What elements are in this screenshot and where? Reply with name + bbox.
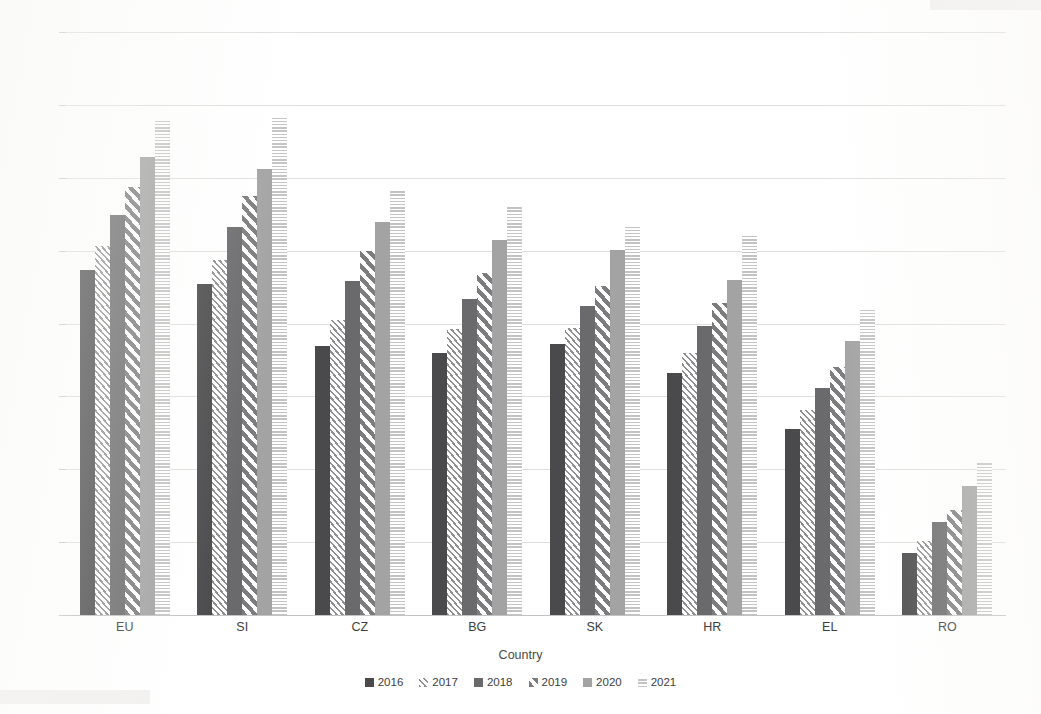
bar-si-2021[interactable]	[272, 118, 287, 615]
bar-group-eu	[66, 32, 184, 615]
bar-si-2020[interactable]	[257, 169, 272, 615]
legend-label: 2018	[487, 676, 513, 688]
bar-el-2016[interactable]	[785, 429, 800, 615]
bar-cz-2018[interactable]	[345, 281, 360, 615]
bar-group-bg	[419, 32, 537, 615]
bar-si-2017[interactable]	[212, 260, 227, 615]
bar-group-bars	[549, 32, 641, 615]
bar-ro-2019[interactable]	[947, 510, 962, 615]
scan-artifact	[0, 690, 150, 704]
x-axis-title: Country	[0, 648, 1041, 662]
bar-hr-2020[interactable]	[727, 280, 742, 615]
x-axis-label-si: SI	[184, 620, 302, 634]
bar-bg-2016[interactable]	[432, 353, 447, 615]
bar-si-2016[interactable]	[197, 284, 212, 615]
bar-chart: DESI composite index 01020304050607080 E…	[0, 0, 1041, 714]
bar-cz-2019[interactable]	[360, 251, 375, 615]
scan-artifact	[930, 0, 1041, 10]
x-axis-label-eu: EU	[66, 620, 184, 634]
bar-sk-2020[interactable]	[610, 250, 625, 615]
legend-swatch-icon	[583, 678, 592, 687]
bar-ro-2020[interactable]	[962, 486, 977, 615]
bar-sk-2019[interactable]	[595, 286, 610, 615]
legend-swatch-icon	[419, 678, 428, 687]
bar-el-2019[interactable]	[830, 367, 845, 615]
bar-hr-2017[interactable]	[682, 353, 697, 615]
x-axis-label-ro: RO	[889, 620, 1007, 634]
bar-cz-2021[interactable]	[390, 189, 405, 615]
x-axis-label-bg: BG	[419, 620, 537, 634]
bar-group-bars	[196, 32, 288, 615]
y-axis-tick-mark	[59, 469, 66, 470]
legend-label: 2021	[651, 676, 677, 688]
legend-swatch-icon	[529, 678, 538, 687]
bar-group-bars	[431, 32, 523, 615]
bar-sk-2021[interactable]	[625, 227, 640, 615]
bar-bg-2021[interactable]	[507, 207, 522, 615]
bar-el-2017[interactable]	[800, 410, 815, 616]
gridline	[66, 615, 1006, 616]
x-axis-label-sk: SK	[536, 620, 654, 634]
bar-sk-2017[interactable]	[565, 328, 580, 615]
bar-cz-2017[interactable]	[330, 320, 345, 615]
x-axis-tick-labels: EUSICZBGSKHRELRO	[66, 620, 1006, 634]
y-axis-tick-mark	[59, 105, 66, 106]
chart-legend: 201620172018201920202021	[0, 676, 1041, 688]
bar-bg-2017[interactable]	[447, 329, 462, 615]
bar-el-2018[interactable]	[815, 388, 830, 615]
x-axis-label-hr: HR	[654, 620, 772, 634]
x-axis-label-el: EL	[771, 620, 889, 634]
legend-swatch-icon	[365, 678, 374, 687]
legend-item-2020[interactable]: 2020	[583, 676, 622, 688]
bar-groups	[66, 32, 1006, 615]
x-axis-label-cz: CZ	[301, 620, 419, 634]
bar-group-el	[771, 32, 889, 615]
bar-eu-2020[interactable]	[140, 157, 155, 615]
legend-label: 2020	[596, 676, 622, 688]
bar-eu-2018[interactable]	[110, 215, 125, 615]
bar-eu-2016[interactable]	[80, 270, 95, 615]
bar-si-2019[interactable]	[242, 196, 257, 615]
bar-group-bars	[901, 32, 993, 615]
y-axis-tick-mark	[59, 178, 66, 179]
bar-ro-2021[interactable]	[977, 462, 992, 615]
bar-sk-2016[interactable]	[550, 344, 565, 615]
bar-group-cz	[301, 32, 419, 615]
bar-sk-2018[interactable]	[580, 306, 595, 615]
bar-hr-2019[interactable]	[712, 303, 727, 615]
bar-el-2021[interactable]	[860, 310, 875, 615]
legend-item-2018[interactable]: 2018	[474, 676, 513, 688]
bar-cz-2016[interactable]	[315, 346, 330, 615]
legend-item-2016[interactable]: 2016	[365, 676, 404, 688]
bar-hr-2016[interactable]	[667, 373, 682, 615]
bar-group-ro	[889, 32, 1007, 615]
bar-ro-2018[interactable]	[932, 522, 947, 615]
y-axis-tick-mark	[59, 542, 66, 543]
legend-swatch-icon	[638, 678, 647, 687]
bar-ro-2016[interactable]	[902, 553, 917, 615]
bar-el-2020[interactable]	[845, 341, 860, 615]
y-axis-tick-mark	[59, 251, 66, 252]
bar-bg-2018[interactable]	[462, 299, 477, 615]
bar-bg-2020[interactable]	[492, 240, 507, 615]
bar-eu-2017[interactable]	[95, 246, 110, 615]
legend-item-2021[interactable]: 2021	[638, 676, 677, 688]
bar-eu-2019[interactable]	[125, 187, 140, 616]
bar-eu-2021[interactable]	[155, 119, 170, 615]
bar-bg-2019[interactable]	[477, 273, 492, 616]
bar-cz-2020[interactable]	[375, 222, 390, 615]
bar-hr-2018[interactable]	[697, 326, 712, 615]
y-axis-tick-mark	[59, 396, 66, 397]
bar-group-bars	[784, 32, 876, 615]
plot-area: 01020304050607080	[66, 32, 1006, 615]
legend-label: 2017	[432, 676, 458, 688]
bar-group-si	[184, 32, 302, 615]
bar-hr-2021[interactable]	[742, 236, 757, 615]
bar-group-bars	[314, 32, 406, 615]
bar-si-2018[interactable]	[227, 227, 242, 615]
bar-group-sk	[536, 32, 654, 615]
bar-ro-2017[interactable]	[917, 541, 932, 615]
legend-item-2019[interactable]: 2019	[529, 676, 568, 688]
bar-group-bars	[79, 32, 171, 615]
legend-item-2017[interactable]: 2017	[419, 676, 458, 688]
